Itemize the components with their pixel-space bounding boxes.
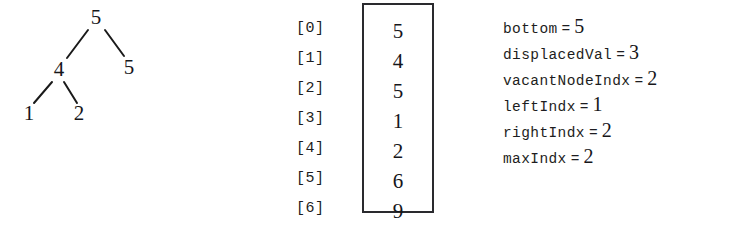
array-index-label-0: [0] [296, 21, 352, 36]
variable-value-displacedVal: 3 [629, 44, 639, 60]
tree-edge-left-to-left-right [64, 82, 77, 103]
array-index-label-1: [1] [296, 51, 352, 66]
variable-name-maxIndx: maxIndx [503, 151, 567, 167]
variable-row-vacantNodeIndx: vacantNodeIndx=2 [503, 70, 728, 96]
array-index-label-6: [6] [296, 201, 352, 216]
array-cell-5: 6 [362, 171, 434, 192]
array-cell-3: 1 [362, 111, 434, 132]
variable-name-displacedVal: displacedVal [503, 47, 612, 63]
tree-edges-group [0, 0, 250, 160]
variable-value-bottom: 5 [574, 18, 584, 34]
variable-value-vacantNodeIndx: 2 [647, 70, 657, 86]
variable-name-leftIndx: leftIndx [503, 99, 576, 115]
tree-node-left-left: 1 [18, 103, 40, 124]
array-cell-4: 2 [362, 141, 434, 162]
equals-sign: = [612, 47, 629, 63]
array-index-label-3: [3] [296, 111, 352, 126]
tree-node-left: 4 [48, 59, 70, 80]
tree-node-right: 5 [118, 57, 140, 78]
variable-row-leftIndx: leftIndx=1 [503, 96, 728, 122]
equals-sign: = [585, 125, 602, 141]
figure-root: 54512 [0][1][2][3][4][5][6] 5451269 bott… [0, 0, 734, 229]
array-representation: [0][1][2][3][4][5][6] 5451269 [296, 0, 446, 229]
array-cell-2: 5 [362, 81, 434, 102]
variable-row-maxIndx: maxIndx=2 [503, 148, 728, 174]
tree-edge-left-to-left-left [34, 82, 52, 103]
array-cell-6: 9 [362, 201, 434, 222]
equals-sign: = [567, 151, 584, 167]
variable-row-displacedVal: displacedVal=3 [503, 44, 728, 70]
variable-row-rightIndx: rightIndx=2 [503, 122, 728, 148]
variable-value-rightIndx: 2 [602, 122, 612, 138]
array-cell-1: 4 [362, 51, 434, 72]
variables-list: bottom=5displacedVal=3vacantNodeIndx=2le… [503, 18, 728, 198]
tree-edge-root-to-left [67, 30, 88, 58]
tree-node-root: 5 [85, 7, 107, 28]
tree-edge-root-to-right [105, 30, 124, 56]
variable-name-bottom: bottom [503, 21, 558, 37]
equals-sign: = [630, 73, 647, 89]
variable-row-bottom: bottom=5 [503, 18, 728, 44]
array-index-label-4: [4] [296, 141, 352, 156]
array-index-label-5: [5] [296, 171, 352, 186]
variable-value-leftIndx: 1 [593, 96, 603, 112]
variable-name-rightIndx: rightIndx [503, 125, 585, 141]
tree-node-left-right: 2 [68, 103, 90, 124]
variable-name-vacantNodeIndx: vacantNodeIndx [503, 73, 630, 89]
array-index-label-2: [2] [296, 81, 352, 96]
variable-value-maxIndx: 2 [583, 148, 593, 164]
array-cell-0: 5 [362, 21, 434, 42]
binary-tree-diagram: 54512 [0, 0, 250, 160]
equals-sign: = [558, 21, 575, 37]
equals-sign: = [576, 99, 593, 115]
